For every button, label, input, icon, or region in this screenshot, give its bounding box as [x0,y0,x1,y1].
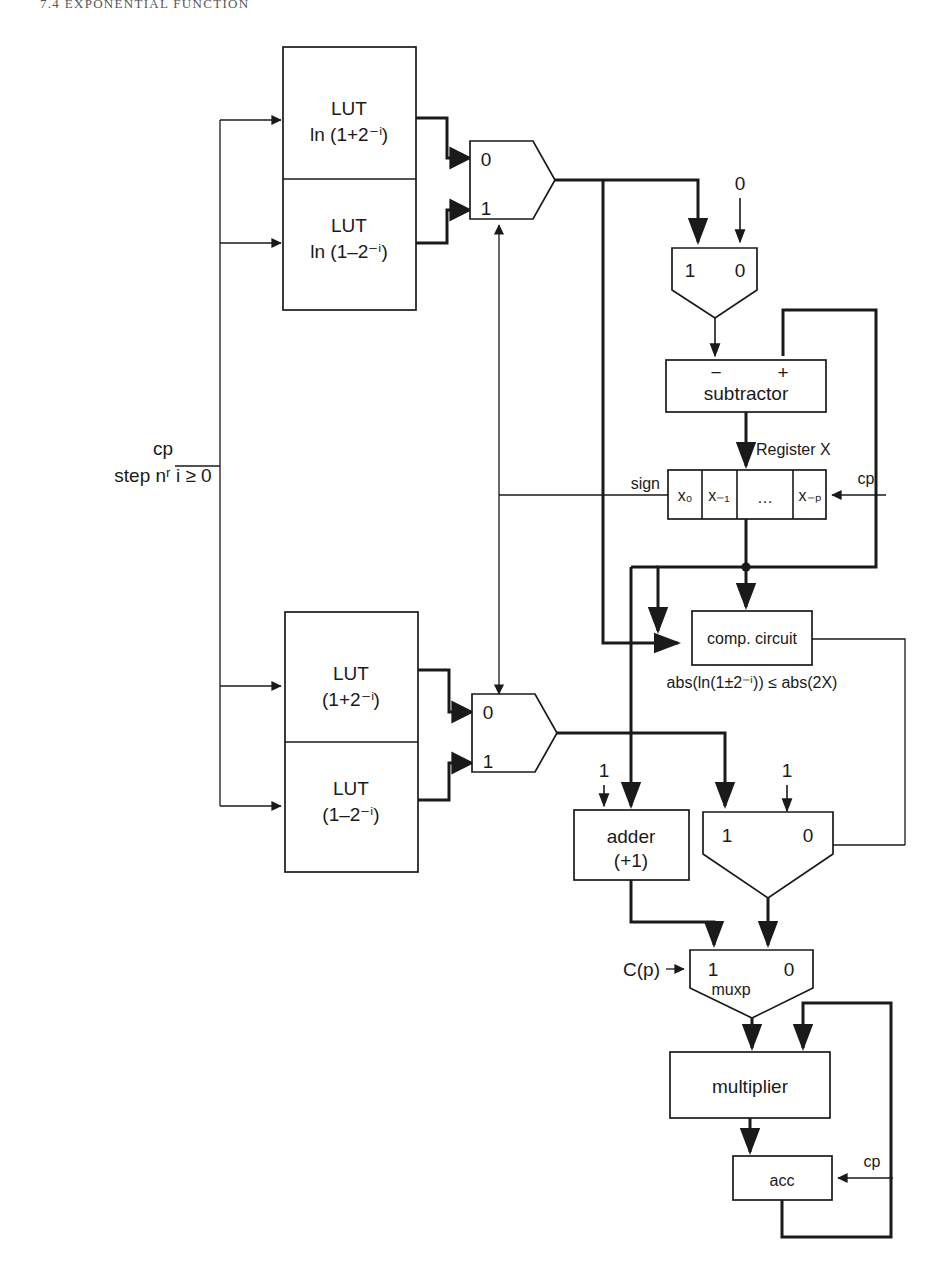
lut-lin-to-mux-wires [418,670,470,800]
register-cell-0: x₀ [678,487,693,504]
lut-lin-minus-title: LUT [333,778,369,799]
const-one-adder-label: 1 [599,760,610,781]
mux-mult-in0: 0 [803,825,814,846]
lut-log-to-mux-wires [416,118,468,243]
acc-label: acc [770,1172,795,1189]
lut-block-linear[interactable]: LUT (1+2⁻ⁱ) LUT (1–2⁻ⁱ) [285,612,418,872]
muxp-in1: 1 [708,959,719,980]
sign-label: sign [631,475,660,492]
acc-cp-label: cp [864,1153,881,1170]
const-one-mux-label: 1 [782,760,793,781]
register-cp-label: cp [858,470,875,487]
muxp-select-label: C(p) [623,959,660,980]
muxp-name: muxp [711,981,750,998]
subtractor-block[interactable]: − + subtractor [666,318,826,412]
mux-multiplicand[interactable]: 1 1 0 [703,760,833,945]
mux-sub-in0: 0 [735,260,746,281]
comparator-label: comp. circuit [707,630,797,647]
sign-select-net: sign [499,225,668,694]
lut-log-plus-expr: ln (1+2⁻ⁱ) [310,124,388,145]
mux-lut-log[interactable]: 0 1 [470,141,555,219]
mux-sub-in1: 1 [685,260,696,281]
subtractor-minus-port: − [710,362,721,383]
mux-lut-lin-in0: 0 [483,702,494,723]
adder-increment: (+1) [614,850,648,871]
lut-lin-plus-title: LUT [333,663,369,684]
lut-lin-plus-expr: (1+2⁻ⁱ) [322,689,380,710]
subtractor-label: subtractor [704,383,789,404]
const-zero-label: 0 [735,173,746,194]
lut-log-plus-title: LUT [331,98,367,119]
lut-log-minus-title: LUT [331,215,367,236]
mux-lut-lin-in1: 1 [483,751,494,772]
adder-label: adder [607,826,656,847]
register-x-title: Register X [756,441,831,458]
multiplier-label: multiplier [712,1076,789,1097]
figure-canvas: cp step nʳ i ≥ 0 LUT ln (1+2⁻ⁱ) LUT ln (… [0,0,943,1281]
lin-mux-output-bus [557,733,725,806]
lut-lin-minus-expr: (1–2⁻ⁱ) [322,804,379,825]
mux-lut-linear[interactable]: 0 1 [472,694,557,772]
lut-log-minus-expr: ln (1–2⁻ⁱ) [310,241,387,262]
subtractor-plus-port: + [777,362,788,383]
adder-block[interactable]: 1 adder (+1) [574,760,714,945]
clock-step-bus: cp step nʳ i ≥ 0 [114,120,281,806]
mux-subtractor-input[interactable]: 1 0 [672,248,757,318]
step-input-label: step nʳ i ≥ 0 [114,465,211,486]
lut-block-log[interactable]: LUT ln (1+2⁻ⁱ) LUT ln (1–2⁻ⁱ) [283,47,416,310]
cp-input-label: cp [153,438,173,459]
accumulator-block[interactable]: acc cp [733,1003,893,1237]
mux-lut-log-in0: 0 [481,149,492,170]
junction-dot [741,562,750,571]
multiplier-block[interactable]: multiplier [670,1052,830,1152]
register-x[interactable]: Register X x₀ x₋₁ … x₋ₚ cp [668,412,886,519]
mux-lut-log-in1: 1 [481,198,492,219]
comparator-block[interactable]: comp. circuit abs(ln(1±2⁻ⁱ)) ≤ abs(2X) [667,611,905,845]
register-cell-3: x₋ₚ [799,487,822,504]
mux-mult-in1: 1 [722,825,733,846]
register-cell-2: … [757,489,773,506]
circuit-diagram: cp step nʳ i ≥ 0 LUT ln (1+2⁻ⁱ) LUT ln (… [0,0,943,1281]
register-cell-1: x₋₁ [708,487,729,504]
const-zero-input: 0 [735,173,746,242]
muxp-in0: 0 [784,959,795,980]
comparator-condition: abs(ln(1±2⁻ⁱ)) ≤ abs(2X) [667,674,838,691]
muxp-block[interactable]: 1 0 muxp C(p) [623,950,813,1048]
